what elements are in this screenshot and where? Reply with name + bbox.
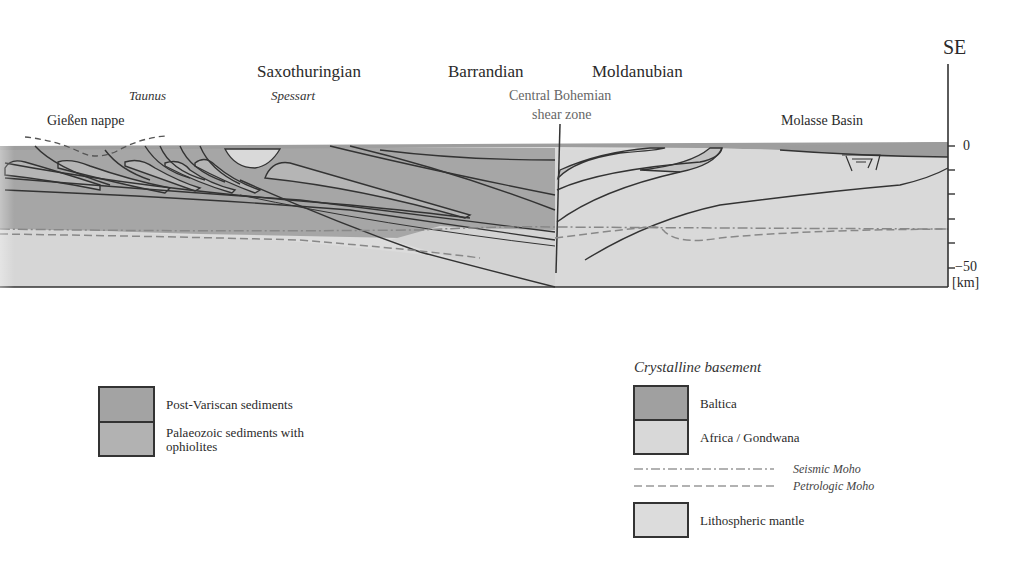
swatch-africa-gondwana [633, 419, 689, 455]
axis-tick-0: 0 [963, 138, 970, 154]
legend-baltica-label: Baltica [700, 397, 737, 411]
axis-tick-minus50: −50 [955, 259, 977, 275]
legend-lithospheric-mantle-label: Lithospheric mantle [700, 514, 804, 528]
axis-ticks [948, 146, 955, 268]
legend-seismic-moho-label: Seismic Moho [793, 462, 861, 477]
legend-moho-lines [632, 462, 777, 492]
label-shear-zone-line2: shear zone [532, 107, 591, 123]
swatch-lithospheric-mantle [633, 502, 689, 538]
legend-palaeozoic-label-1: Palaeozoic sediments with [166, 426, 304, 440]
region-label-barrandian: Barrandian [448, 62, 524, 82]
legend-heading-crystalline-basement: Crystalline basement [634, 359, 761, 376]
swatch-baltica [633, 385, 689, 421]
axis-unit-km: [km] [952, 275, 979, 291]
label-giessen-nappe: Gießen nappe [47, 113, 124, 129]
legend-africa-gondwana-label: Africa / Gondwana [700, 431, 800, 445]
swatch-post-variscan [98, 386, 155, 423]
sublabel-spessart: Spessart [271, 88, 315, 104]
legend-palaeozoic-label-2: ophiolites [166, 440, 217, 454]
legend-petrologic-moho-label: Petrologic Moho [793, 479, 874, 494]
region-label-moldanubian: Moldanubian [592, 62, 683, 82]
region-label-saxothuringian: Saxothuringian [257, 62, 361, 82]
label-shear-zone-line1: Central Bohemian [509, 88, 611, 104]
legend-post-variscan-label: Post-Variscan sediments [166, 398, 293, 412]
cross-section [0, 0, 1034, 300]
direction-label-se: SE [943, 36, 966, 59]
sublabel-taunus: Taunus [129, 88, 166, 104]
swatch-palaeozoic [98, 421, 155, 457]
label-molasse-basin: Molasse Basin [781, 113, 863, 129]
